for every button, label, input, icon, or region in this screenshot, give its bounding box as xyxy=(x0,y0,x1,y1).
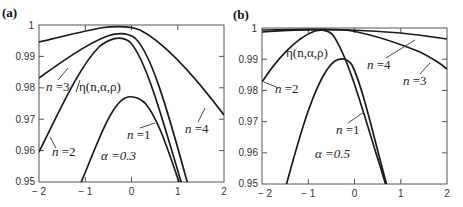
label-n2: n =2 xyxy=(275,81,299,96)
y-tick-label: 0.98 xyxy=(239,85,259,96)
curve-n4 xyxy=(39,27,224,115)
y-tick-label: 0.99 xyxy=(16,51,36,62)
label-func: η(n,α,ρ) xyxy=(79,79,121,94)
x-tick-label: − 2 xyxy=(258,188,273,199)
panel-a: (a) 1 0.99 0.98 0.97 0.96 0.95 − 2 − 1 0 xyxy=(2,5,227,197)
x-tick-label: 1 xyxy=(175,186,181,197)
x-tick-label: − 1 xyxy=(301,188,316,199)
label-n4: n =4 xyxy=(367,57,391,72)
x-tick-label: − 2 xyxy=(32,186,47,197)
x-tick-label: 0 xyxy=(352,188,358,199)
x-tick-label: 2 xyxy=(221,186,227,197)
panel-b-label: (b) xyxy=(233,7,249,22)
label-n1: n =1 xyxy=(127,127,151,142)
label-n3: n =3 xyxy=(46,79,70,94)
y-tick-label: 0.99 xyxy=(239,54,259,65)
panel-b-x-tick-labels: − 2 − 1 0 1 2 xyxy=(258,188,450,199)
label-n3: n =3 xyxy=(403,73,427,88)
x-tick-label: − 1 xyxy=(78,186,93,197)
x-tick-label: 2 xyxy=(444,188,450,199)
label-alpha: α =0.3 xyxy=(101,148,137,163)
label-n4: n =4 xyxy=(185,121,209,136)
y-tick-label: 0.96 xyxy=(16,145,36,156)
figure: (a) 1 0.99 0.98 0.97 0.96 0.95 − 2 − 1 0 xyxy=(0,0,463,207)
leader-n4 xyxy=(198,108,205,122)
panel-a-label: (a) xyxy=(2,5,17,20)
label-alpha: α =0.5 xyxy=(315,146,351,161)
label-n1: n =1 xyxy=(336,122,360,137)
label-func: η(n,α,ρ) xyxy=(286,45,328,60)
panel-b: (b) 1 0.99 0.98 0.97 0.96 0.95 − 2 − 1 0… xyxy=(233,7,450,199)
panel-a-x-tick-labels: − 2 − 1 0 1 2 xyxy=(32,186,227,197)
x-tick-label: 1 xyxy=(398,188,404,199)
y-tick-label: 0.95 xyxy=(239,178,259,189)
y-tick-label: 0.98 xyxy=(16,82,36,93)
y-tick-label: 1 xyxy=(28,20,34,31)
y-tick-label: 0.96 xyxy=(239,147,259,158)
y-tick-label: 0.97 xyxy=(16,114,36,125)
panel-a-y-tick-labels: 1 0.99 0.98 0.97 0.96 0.95 xyxy=(16,20,36,187)
x-tick-label: 0 xyxy=(129,186,135,197)
y-tick-label: 0.97 xyxy=(239,116,259,127)
y-tick-label: 1 xyxy=(251,23,257,34)
panel-b-y-tick-labels: 1 0.99 0.98 0.97 0.96 0.95 xyxy=(239,23,259,189)
